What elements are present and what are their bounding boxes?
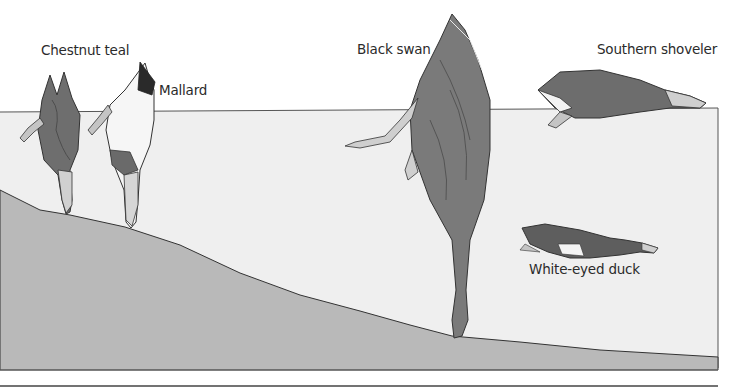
label-mallard: Mallard bbox=[159, 82, 207, 98]
label-white-eyed-duck: White-eyed duck bbox=[529, 261, 640, 277]
label-chestnut-teal: Chestnut teal bbox=[41, 42, 129, 58]
waterfowl-feeding-diagram: Chestnut teal Mallard Black swan Souther… bbox=[0, 0, 735, 387]
diagram-illustration bbox=[0, 0, 735, 387]
label-black-swan: Black swan bbox=[357, 41, 431, 57]
label-southern-shoveler: Southern shoveler bbox=[597, 41, 717, 57]
